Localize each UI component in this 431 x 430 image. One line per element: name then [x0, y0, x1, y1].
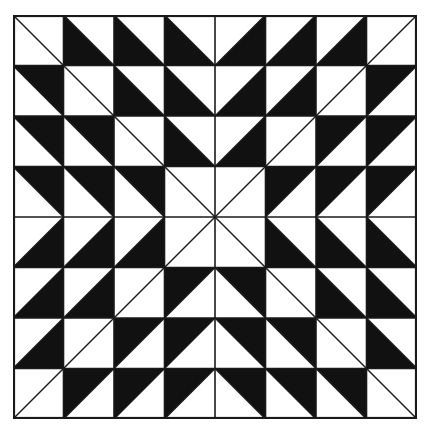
quilt-cell [114, 167, 165, 218]
diagonal-line [64, 318, 115, 369]
diagonal-line [215, 167, 266, 218]
quilt-cell [114, 318, 165, 369]
quilt-cell [13, 167, 64, 218]
quilt-grid [13, 15, 417, 419]
quilt-cell [266, 167, 317, 218]
quilt-cell [165, 318, 216, 369]
quilt-cell [165, 268, 216, 319]
diagonal-line [13, 369, 64, 420]
quilt-cell [316, 116, 367, 167]
quilt-pattern-diagram [13, 15, 417, 419]
diagonal-line [316, 318, 367, 369]
quilt-cell [367, 318, 418, 369]
quilt-cell [165, 116, 216, 167]
quilt-cell [367, 66, 418, 117]
quilt-cell [266, 66, 317, 117]
quilt-cell [64, 217, 115, 268]
quilt-cell [266, 15, 317, 66]
quilt-cell [165, 15, 216, 66]
diagonal-line [64, 66, 115, 117]
diagonal-line [367, 369, 418, 420]
quilt-cell [316, 66, 367, 117]
quilt-cell [215, 116, 266, 167]
quilt-cell [114, 116, 165, 167]
quilt-cell [367, 369, 418, 420]
quilt-cell [13, 217, 64, 268]
quilt-cell [367, 167, 418, 218]
quilt-cell [64, 116, 115, 167]
diagonal-line [367, 15, 418, 66]
diagonal-line [266, 116, 317, 167]
quilt-cell [13, 268, 64, 319]
quilt-cell [367, 15, 418, 66]
quilt-cell [13, 318, 64, 369]
quilt-cell [64, 167, 115, 218]
quilt-cell [13, 15, 64, 66]
quilt-cell [165, 167, 216, 218]
diagonal-line [13, 15, 64, 66]
diagonal-line [114, 116, 165, 167]
quilt-cell [64, 318, 115, 369]
quilt-cell [215, 167, 266, 218]
diagonal-line [114, 268, 165, 319]
quilt-cell [165, 66, 216, 117]
diagonal-line [316, 66, 367, 117]
diagonal-line [165, 167, 216, 218]
quilt-cell [367, 268, 418, 319]
quilt-cell [64, 66, 115, 117]
quilt-cell [316, 268, 367, 319]
quilt-cell [316, 15, 367, 66]
quilt-cell [64, 369, 115, 420]
quilt-cell [367, 217, 418, 268]
quilt-cell [114, 217, 165, 268]
quilt-cell [215, 66, 266, 117]
quilt-cell [316, 369, 367, 420]
diagonal-line [215, 217, 266, 268]
quilt-cell [266, 116, 317, 167]
quilt-cell [316, 167, 367, 218]
quilt-cell [266, 318, 317, 369]
quilt-cell [367, 116, 418, 167]
quilt-cell [114, 66, 165, 117]
diagonal-line [266, 268, 317, 319]
quilt-cell [165, 369, 216, 420]
quilt-cell [114, 369, 165, 420]
quilt-cell [64, 268, 115, 319]
quilt-cell [266, 268, 317, 319]
quilt-cell [215, 15, 266, 66]
quilt-cell [215, 268, 266, 319]
quilt-cell [165, 217, 216, 268]
quilt-cell [316, 318, 367, 369]
quilt-cell [266, 369, 317, 420]
quilt-cell [215, 318, 266, 369]
quilt-cell [64, 15, 115, 66]
quilt-cell [114, 268, 165, 319]
quilt-cell [215, 217, 266, 268]
quilt-cell [266, 217, 317, 268]
quilt-cell [215, 369, 266, 420]
quilt-cell [114, 15, 165, 66]
quilt-cell [316, 217, 367, 268]
diagonal-line [165, 217, 216, 268]
quilt-cell [13, 369, 64, 420]
quilt-cell [13, 66, 64, 117]
quilt-cell [13, 116, 64, 167]
